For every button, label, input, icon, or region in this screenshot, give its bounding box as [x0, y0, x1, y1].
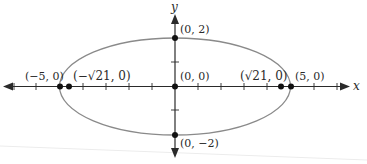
point-vertex-left [57, 84, 63, 90]
label-co-vertex-top: (0, 2) [180, 23, 210, 36]
x-axis-right-arrow-icon [340, 83, 350, 91]
x-axis-left-arrow-icon [3, 83, 13, 91]
label-co-vertex-bottom: (0, −2) [180, 137, 219, 150]
label-focus-right: (√21, 0) [240, 69, 288, 83]
ellipse-diagram: x y (−5, 0) (−√21, 0) (0, [0, 0, 367, 164]
point-focus-left [66, 84, 72, 90]
y-axis-up-arrow-icon [171, 14, 179, 24]
label-vertex-left: (−5, 0) [25, 70, 64, 83]
point-center [172, 84, 178, 90]
point-focus-right [278, 84, 284, 90]
x-axis-label: x [353, 79, 360, 93]
label-center: (0, 0) [180, 70, 210, 83]
label-focus-left: (−√21, 0) [73, 69, 131, 83]
point-co-vertex-top [172, 35, 178, 41]
point-vertex-right [288, 84, 294, 90]
point-co-vertex-bottom [172, 132, 178, 138]
label-vertex-right: (5, 0) [295, 70, 325, 83]
diagram-canvas: x y (−5, 0) (−√21, 0) (0, [0, 0, 367, 164]
y-axis-label: y [170, 0, 178, 14]
